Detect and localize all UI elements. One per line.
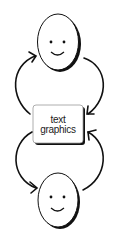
face-bottom-left-eye-icon [50, 196, 53, 199]
arrow-bottom-face-to-box [83, 132, 103, 190]
face-bottom-outline [38, 173, 78, 227]
text-graphics-label: text graphics [33, 107, 83, 143]
face-top-left-eye-icon [50, 41, 53, 44]
face-top-outline [38, 14, 79, 70]
face-top-right-eye-icon [63, 41, 66, 44]
label-line-2: graphics [40, 125, 75, 135]
arrow-top-face-to-box [84, 58, 103, 114]
face-bottom-right-eye-icon [63, 196, 66, 199]
face-top [38, 14, 82, 72]
arrow-box-to-top-face [16, 56, 35, 114]
face-bottom [38, 173, 80, 229]
